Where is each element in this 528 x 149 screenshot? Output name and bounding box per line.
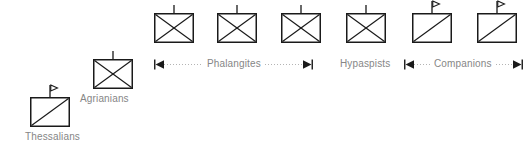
unit-diagram-canvas: ThessaliansAgrianiansPhalangitesHypaspis… (0, 0, 528, 149)
unit-symbol-companions-2[interactable] (476, 0, 518, 45)
extent-arrow-left-phalangites (156, 60, 165, 68)
topper-flag-icon-companions-1 (432, 1, 440, 13)
formation-label-hypaspists: Hypaspists (340, 58, 390, 70)
unit-symbol-phalangites-1[interactable] (153, 0, 195, 45)
unit-symbol-phalangites-3[interactable] (280, 0, 322, 45)
formation-extent-line-companions (404, 59, 525, 71)
extent-arrow-left-companions (406, 60, 415, 68)
unit-symbol-agrianians[interactable] (92, 46, 134, 91)
unit-label-agrianians: Agrianians (80, 93, 129, 105)
unit-label-thessalians: Thessalians (25, 131, 80, 143)
unit-symbol-phalangites-2[interactable] (216, 0, 258, 45)
extent-arrow-right-companions (513, 60, 522, 68)
unit-symbol-hypaspists-1[interactable] (345, 0, 387, 45)
extent-arrow-right-phalangites (303, 60, 312, 68)
formation-extent-line-phalangites (154, 59, 315, 71)
topper-flag-icon-thessalians (50, 85, 58, 97)
unit-symbol-companions-1[interactable] (411, 0, 453, 45)
topper-flag-icon-companions-2 (497, 1, 505, 13)
unit-symbol-thessalians[interactable] (29, 84, 71, 129)
